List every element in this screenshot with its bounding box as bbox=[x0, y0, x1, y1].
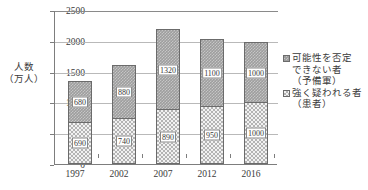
bar-label-upper-2007: 1320 bbox=[158, 64, 178, 75]
bar-segment-lower-2016[interactable]: 1000 bbox=[244, 102, 268, 164]
legend-label-yobigun-line3: （予備軍） bbox=[292, 76, 368, 88]
bar-segment-upper-2007[interactable]: 1320 bbox=[156, 29, 180, 110]
bar-group-1997[interactable]: 680 690 bbox=[68, 82, 92, 164]
bar-group-2016[interactable]: 1000 1000 bbox=[244, 43, 268, 164]
bar-segment-lower-2012[interactable]: 950 bbox=[200, 106, 224, 165]
bar-label-upper-2002: 880 bbox=[116, 87, 132, 98]
plot-area: 680 690 880 740 1320 890 bbox=[54, 11, 277, 165]
y-tick-mark-0 bbox=[50, 165, 54, 166]
bar-segment-upper-1997[interactable]: 680 bbox=[68, 81, 92, 123]
swatch-lower-icon bbox=[283, 90, 290, 97]
x-tick-mark-2 bbox=[142, 154, 143, 158]
x-axis-label-2012: 2012 bbox=[185, 169, 229, 179]
bar-group-2007[interactable]: 1320 890 bbox=[156, 30, 180, 164]
x-axis-label-2002: 2002 bbox=[97, 169, 141, 179]
bar-segment-upper-2016[interactable]: 1000 bbox=[244, 42, 268, 104]
bar-label-lower-2012: 950 bbox=[204, 129, 220, 140]
swatch-upper-icon bbox=[283, 55, 290, 62]
legend-entry-yobigun[interactable]: 可能性を否定 できない者 （予備軍） bbox=[283, 53, 368, 88]
bar-segment-lower-1997[interactable]: 690 bbox=[68, 122, 92, 165]
legend-label-yobigun-line1: 可能性を否定 bbox=[292, 53, 368, 65]
bar-label-lower-2016: 1000 bbox=[246, 128, 266, 139]
stacked-bar-chart: 人数 （万人） 2500 2000 1500 1000 500 0 680 69… bbox=[0, 0, 368, 190]
gridline-2500 bbox=[55, 11, 278, 12]
legend-entry-kanja[interactable]: 強く疑われる者 （患者） bbox=[283, 88, 368, 111]
x-tick-mark-0 bbox=[54, 154, 55, 158]
bar-label-lower-2007: 890 bbox=[160, 131, 176, 142]
bar-segment-lower-2002[interactable]: 740 bbox=[112, 118, 136, 164]
bar-segment-upper-2012[interactable]: 1100 bbox=[200, 39, 224, 107]
x-axis-label-1997: 1997 bbox=[53, 169, 97, 179]
bar-label-upper-2012: 1100 bbox=[202, 67, 222, 78]
x-tick-mark-3 bbox=[186, 154, 187, 158]
legend-label-kanja-line1: 強く疑われる者 bbox=[292, 88, 368, 100]
bar-group-2002[interactable]: 880 740 bbox=[112, 66, 136, 164]
x-axis-label-2007: 2007 bbox=[141, 169, 185, 179]
x-axis-label-2016: 2016 bbox=[229, 169, 273, 179]
chart-legend: 可能性を否定 できない者 （予備軍） 強く疑われる者 （患者） bbox=[283, 53, 368, 111]
bar-group-2012[interactable]: 1100 950 bbox=[200, 40, 224, 164]
x-tick-mark-4 bbox=[230, 154, 231, 158]
bar-segment-upper-2002[interactable]: 880 bbox=[112, 65, 136, 119]
legend-label-yobigun-line2: できない者 bbox=[292, 65, 368, 77]
x-tick-mark-1 bbox=[98, 154, 99, 158]
legend-label-kanja-line2: （患者） bbox=[292, 99, 368, 111]
bar-label-lower-1997: 690 bbox=[72, 137, 88, 148]
bar-label-upper-1997: 680 bbox=[72, 96, 88, 107]
x-tick-mark-5 bbox=[274, 154, 275, 158]
bar-label-lower-2002: 740 bbox=[116, 136, 132, 147]
bar-label-upper-2016: 1000 bbox=[246, 67, 266, 78]
bar-segment-lower-2007[interactable]: 890 bbox=[156, 109, 180, 164]
